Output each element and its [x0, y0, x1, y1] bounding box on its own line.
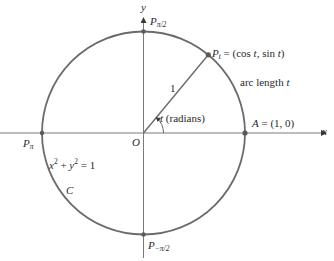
origin-label: O: [132, 137, 140, 148]
eq-plus: +: [58, 159, 70, 171]
y-axis-label: y: [141, 2, 146, 13]
point-a: [242, 130, 247, 135]
arc-length-var: t: [286, 76, 289, 88]
label-a: A = (1, 0): [252, 118, 294, 129]
arc-length-label: arc length t: [240, 77, 290, 88]
radius-label: 1: [170, 83, 176, 94]
curve-name-label: C: [66, 185, 73, 196]
p-t-mid: , sin: [257, 47, 278, 59]
p-neg-half-pi-base: P: [148, 239, 155, 251]
p-half-pi-base: P: [150, 15, 157, 27]
a-rest: = (1, 0): [259, 117, 295, 129]
point-p-neg-half-pi: [141, 232, 145, 236]
label-p-t: Pt = (cos t, sin t): [212, 48, 285, 61]
p-pi-sub: π: [30, 142, 34, 151]
unit-circle-diagram: [0, 0, 334, 261]
label-p-pi: Pπ: [23, 138, 34, 151]
p-neg-half-pi-sub: −π/2: [155, 244, 170, 253]
point-p-half-pi: [141, 29, 145, 33]
circle-equation: x2 + y2 = 1: [49, 158, 95, 171]
angle-label: t (radians): [160, 113, 205, 124]
p-half-pi-sub: π/2: [157, 20, 167, 29]
arc-length-prefix: arc length: [240, 76, 286, 88]
p-pi-base: P: [23, 137, 30, 149]
label-p-half-pi: Pπ/2: [150, 16, 166, 29]
p-t-base: P: [212, 47, 219, 59]
p-t-end: ): [281, 47, 285, 59]
x-axis-label: x: [322, 126, 327, 137]
eq-eq: = 1: [78, 159, 95, 171]
p-t-rest: = (cos: [221, 47, 254, 59]
label-p-neg-half-pi: P−π/2: [148, 240, 169, 253]
angle-unit: (radians): [163, 112, 205, 124]
point-p-pi: [40, 131, 44, 135]
a-base: A: [252, 117, 259, 129]
point-p-t: [206, 52, 211, 57]
